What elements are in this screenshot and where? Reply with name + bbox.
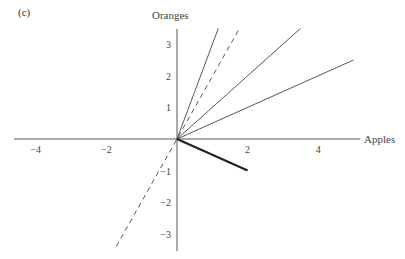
steep-solid-ray — [177, 28, 218, 139]
flat-solid-ray — [177, 60, 354, 139]
chart: ApplesOranges−4−224−3−2−1123 — [0, 0, 405, 259]
y-tick-label: −3 — [160, 229, 171, 240]
x-tick-label: 4 — [316, 144, 321, 155]
x-axis-label: Apples — [364, 133, 395, 145]
y-tick-label: 1 — [166, 102, 171, 113]
bold-vector — [177, 139, 248, 171]
x-tick-label: −4 — [30, 144, 41, 155]
y-tick-label: −1 — [160, 166, 171, 177]
y-axis-label: Oranges — [152, 9, 189, 21]
mid-solid-ray — [177, 28, 301, 139]
y-tick-label: 3 — [166, 39, 171, 50]
y-tick-label: −2 — [160, 197, 171, 208]
x-tick-label: 2 — [245, 144, 250, 155]
x-tick-label: −2 — [101, 144, 112, 155]
y-tick-label: 2 — [166, 71, 171, 82]
